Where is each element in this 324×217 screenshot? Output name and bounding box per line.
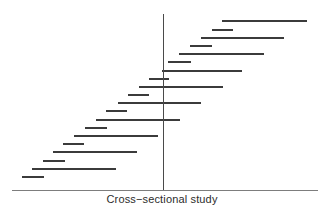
interval-plot: [0, 0, 324, 217]
interval-segments-group: [22, 21, 307, 177]
figure-container: Cross−sectional study: [0, 0, 324, 217]
axis-caption-label: Cross−sectional study: [0, 193, 324, 205]
